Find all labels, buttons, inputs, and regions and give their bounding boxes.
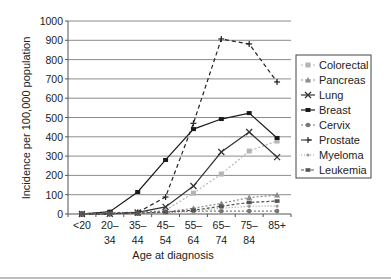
point-leukemia xyxy=(219,204,224,208)
y-tick-label: 800 xyxy=(45,54,63,66)
point-leukemia xyxy=(163,210,168,214)
point-cervix xyxy=(275,209,280,214)
x-tick-labels: <2020–3435–4445–5455–6465–7475–8485+ xyxy=(73,219,286,246)
point-lung xyxy=(218,149,224,155)
series-prostate xyxy=(79,36,280,217)
point-leukemia xyxy=(79,212,84,216)
legend-label: Lung xyxy=(319,89,343,101)
point-breast xyxy=(247,111,252,115)
legend-marker xyxy=(306,108,311,112)
legend-label: Prostate xyxy=(319,134,360,146)
y-tick-label: 400 xyxy=(45,131,63,143)
y-tick-label: 600 xyxy=(45,92,63,104)
legend-marker xyxy=(306,168,311,172)
point-prostate xyxy=(246,41,252,47)
point-lung xyxy=(274,154,280,160)
y-tick-label: 300 xyxy=(45,150,63,162)
legend-label: Myeloma xyxy=(319,149,365,161)
legend-label: Breast xyxy=(319,104,351,116)
point-myeloma xyxy=(275,204,278,207)
legend-marker xyxy=(306,123,311,128)
line-prostate xyxy=(82,39,277,214)
point-leukemia xyxy=(247,201,252,205)
x-tick-label: 64 xyxy=(188,234,200,246)
y-axis-label: Incidence per 100,000 population xyxy=(20,37,32,200)
x-tick-label: 74 xyxy=(215,234,227,246)
point-leukemia xyxy=(275,199,280,203)
legend-label: Leukemia xyxy=(319,164,368,176)
point-lung xyxy=(190,183,196,189)
point-leukemia xyxy=(191,208,196,212)
legend-label: Colorectal xyxy=(319,59,369,71)
point-prostate xyxy=(190,120,196,126)
point-colorectal xyxy=(247,149,252,154)
legend-marker xyxy=(306,63,311,68)
x-tick-label: 44 xyxy=(132,234,144,246)
x-tick-label: <20 xyxy=(73,219,91,231)
legend: ColorectalPancreasLungBreastCervixProsta… xyxy=(296,55,371,178)
x-tick-label: 75– xyxy=(240,219,258,231)
x-tick-label: 54 xyxy=(160,234,172,246)
point-leukemia xyxy=(135,211,140,215)
legend-label: Cervix xyxy=(319,119,351,131)
x-tick-label: 35– xyxy=(129,219,147,231)
y-tick-labels: 01002003004005006007008009001000 xyxy=(40,15,64,220)
x-tick-label: 84 xyxy=(243,234,255,246)
x-tick-label: 20– xyxy=(101,219,119,231)
y-tick-label: 700 xyxy=(45,73,63,85)
point-breast xyxy=(163,158,168,162)
legend-label: Pancreas xyxy=(319,74,366,86)
point-colorectal xyxy=(191,191,196,196)
x-tick-label: 55– xyxy=(185,219,203,231)
y-tick-label: 200 xyxy=(45,169,63,181)
x-tick-label: 85+ xyxy=(268,219,286,231)
series-lines xyxy=(79,36,280,217)
x-tick-label: 65– xyxy=(213,219,231,231)
point-breast xyxy=(275,136,280,140)
legend-marker xyxy=(306,153,309,156)
x-axis-label: Age at diagnosis xyxy=(132,249,214,261)
y-tick-label: 100 xyxy=(45,189,63,201)
point-prostate xyxy=(218,36,224,42)
point-breast xyxy=(135,190,140,194)
y-tick-label: 0 xyxy=(57,208,63,220)
gridlines xyxy=(65,21,291,217)
point-colorectal xyxy=(219,172,224,177)
point-breast xyxy=(219,117,224,121)
y-tick-label: 900 xyxy=(45,34,63,46)
y-tick-label: 500 xyxy=(45,112,63,124)
point-pancreas xyxy=(246,195,252,201)
point-prostate xyxy=(274,79,280,85)
point-leukemia xyxy=(107,211,112,215)
line-chart: 01002003004005006007008009001000 <2020–3… xyxy=(0,0,391,279)
series-breast xyxy=(79,111,279,216)
point-lung xyxy=(246,129,252,135)
x-tick-label: 34 xyxy=(104,234,116,246)
point-cervix xyxy=(247,209,252,214)
x-tick-label: 45– xyxy=(157,219,175,231)
point-myeloma xyxy=(248,205,251,208)
y-tick-label: 1000 xyxy=(40,15,64,27)
